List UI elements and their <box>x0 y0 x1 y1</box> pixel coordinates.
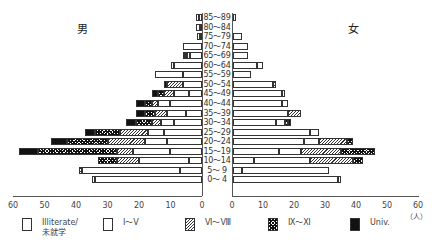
legend-label: Illiterate/ <box>42 218 78 228</box>
bar-segment <box>288 110 300 117</box>
bar-segment <box>189 157 202 164</box>
bar-segment <box>126 119 135 126</box>
bar-segment <box>233 138 304 145</box>
female-bar <box>233 176 342 183</box>
bar-segment <box>279 148 301 155</box>
bar-segment <box>183 43 202 50</box>
bar-segment <box>233 90 283 97</box>
age-group-label: 50～54 <box>202 80 232 89</box>
bar-segment <box>174 62 202 69</box>
bar-segment <box>273 81 276 88</box>
female-bar <box>233 62 264 69</box>
bar-segment <box>19 148 38 155</box>
male-bar <box>98 157 202 164</box>
male-bar <box>136 110 202 117</box>
male-bar <box>85 129 202 136</box>
bar-segment <box>145 110 154 117</box>
male-bar <box>152 90 202 97</box>
female-bar <box>233 43 249 50</box>
age-group-label: 65～69 <box>202 51 232 60</box>
x-tick-label: 30 <box>102 201 112 210</box>
male-bar <box>19 148 202 155</box>
male-bar <box>183 43 202 50</box>
age-group-label: 60～64 <box>202 61 232 70</box>
x-tick-label: 40 <box>71 201 81 210</box>
x-tick-label: 30 <box>320 201 330 210</box>
male-bar <box>136 100 202 107</box>
bar-segment <box>51 138 67 145</box>
male-baseline <box>202 13 203 196</box>
bar-segment <box>233 43 249 50</box>
bar-segment <box>242 167 329 174</box>
bar-segment <box>319 138 347 145</box>
age-group-label: 0～ 4 <box>202 175 232 184</box>
bar-segment <box>95 129 120 136</box>
male-bar <box>183 52 202 59</box>
bar-segment <box>347 138 353 145</box>
bar-segment <box>170 148 202 155</box>
solid-pattern-swatch <box>350 218 360 231</box>
x-tick-label: 10 <box>258 201 268 210</box>
age-group-label: 25～29 <box>202 128 232 137</box>
bar-segment <box>282 90 285 97</box>
bar-segment <box>233 148 280 155</box>
x-tick-label: 10 <box>165 201 175 210</box>
bar-segment <box>233 52 249 59</box>
bar-segment <box>190 52 202 59</box>
bar-segment <box>183 71 202 78</box>
bar-segment <box>161 119 174 126</box>
bar-segment <box>254 157 310 164</box>
diagonal-pattern-swatch <box>185 218 195 231</box>
legend-item-univ: Univ. <box>350 218 390 231</box>
x-tick-label: 60 <box>8 201 18 210</box>
bar-segment <box>233 176 338 183</box>
male-bar <box>51 138 202 145</box>
male-axis-line <box>13 196 202 197</box>
bar-segment <box>233 100 283 107</box>
female-bar <box>233 71 252 78</box>
legend-item-grade-9-11: Ⅸ～Ⅺ <box>268 218 311 231</box>
x-tick-label: 20 <box>134 201 144 210</box>
bar-segment <box>167 110 186 117</box>
x-tick-label: 50 <box>39 201 49 210</box>
bar-segment <box>233 157 255 164</box>
x-tick-label: 50 <box>382 201 392 210</box>
bar-segment <box>158 100 171 107</box>
legend-label: Ⅵ～Ⅷ <box>205 218 231 228</box>
bar-segment <box>233 33 242 40</box>
bar-segment <box>233 81 273 88</box>
age-group-label: 30～34 <box>202 118 232 127</box>
bar-segment <box>108 138 146 145</box>
male-label: 男 <box>77 20 88 36</box>
age-group-label: 70～74 <box>202 42 232 51</box>
female-baseline <box>232 13 233 196</box>
bar-segment <box>233 167 242 174</box>
bar-segment <box>164 90 173 97</box>
bar-segment <box>183 81 202 88</box>
x-tick-label: 0 <box>199 201 204 210</box>
bar-segment <box>85 129 94 136</box>
bar-segment <box>133 148 171 155</box>
diamond-pattern-swatch <box>268 218 278 231</box>
bar-segment <box>155 110 168 117</box>
bar-segment <box>95 176 202 183</box>
female-bar <box>233 81 276 88</box>
age-group-label: 10～14 <box>202 156 232 165</box>
bar-segment <box>136 100 145 107</box>
age-group-label: 35～39 <box>202 109 232 118</box>
legend-label: Ⅸ～Ⅺ <box>288 218 311 228</box>
female-bar <box>233 52 249 59</box>
bar-segment <box>145 138 167 145</box>
age-group-label: 5～ 9 <box>202 166 232 175</box>
legend-item-illiterate: Illiterate/ 未就学 <box>22 218 78 238</box>
legend: Illiterate/ 未就学 Ⅰ～Ⅴ Ⅵ～Ⅷ Ⅸ～Ⅺ Univ. <box>0 218 432 251</box>
bar-segment <box>341 148 375 155</box>
blank-pattern-swatch <box>22 218 32 231</box>
bar-segment <box>167 81 183 88</box>
legend-label-sub: 未就学 <box>42 228 78 238</box>
bar-segment <box>152 119 161 126</box>
bar-segment <box>233 71 252 78</box>
bar-segment <box>282 100 288 107</box>
female-bar <box>233 157 363 164</box>
bar-segment <box>288 119 291 126</box>
